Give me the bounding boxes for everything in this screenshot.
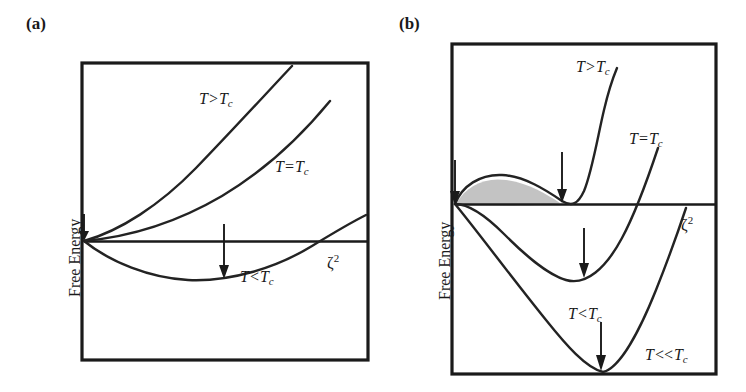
panel-b-deep-minimum-arrow (596, 322, 606, 371)
panel-b-mid-minimum-arrow (579, 228, 589, 278)
panel-b-label-below-tc: T<Tc (568, 305, 602, 324)
panel-b-zeta-symbol: ζ (681, 216, 688, 233)
panel-b-label-below-tc-rhs: T (588, 305, 597, 322)
panel-b-frame (452, 44, 716, 374)
panel-b-label-far-below-tc-lhs: T (645, 346, 654, 363)
panel-b-label-above-tc-op: > (585, 58, 596, 75)
panel-b-x-axis-label: ζ2 (681, 214, 693, 234)
panel-b-label-above-tc-sub: c (605, 65, 610, 77)
figure-root: (a) Free Energy T>Tc T=Tc T<Tc ζ2 (0, 0, 746, 392)
panel-b-label-far-below-tc-rhs: T (674, 346, 683, 363)
panel-b-label-at-tc-rhs: T (649, 130, 658, 147)
panel-b-label-at-tc-lhs: T (629, 130, 638, 147)
panel-b-label-above-tc-rhs: T (596, 58, 605, 75)
panel-b-curve-at-tc (455, 148, 658, 281)
panel-b-label-above-tc: T>Tc (576, 58, 610, 77)
panel-b-plot (0, 0, 746, 392)
panel-b-label-far-below-tc: T<<Tc (645, 346, 688, 365)
panel-b-hump-minimum-arrow (557, 152, 567, 203)
panel-b-label-at-tc-sub: c (658, 137, 663, 149)
panel-b-label-at-tc-op: = (638, 130, 649, 147)
panel-b-label-at-tc: T=Tc (629, 130, 663, 149)
panel-b-label-below-tc-lhs: T (568, 305, 577, 322)
panel-b-label-below-tc-op: < (577, 305, 588, 322)
panel-b-zeta-exponent: 2 (688, 214, 694, 226)
panel-b-label-below-tc-sub: c (597, 312, 602, 324)
panel-b-label-far-below-tc-op: << (654, 346, 674, 363)
panel-b-label-far-below-tc-sub: c (683, 353, 688, 365)
panel-b-label-above-tc-lhs: T (576, 58, 585, 75)
